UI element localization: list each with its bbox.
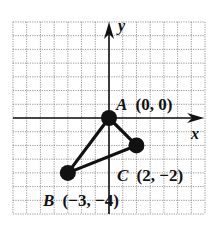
vertex-a-dot — [101, 110, 117, 126]
vertex-coords-a: (0, 0) — [136, 95, 173, 114]
coordinate-plane: x y A (0, 0) B (−3, −4) C (2, −2) — [0, 0, 211, 229]
vertex-name-b: B — [42, 191, 54, 210]
vertex-coords-b: (−3, −4) — [63, 191, 119, 210]
x-axis-label: x — [190, 125, 199, 142]
vertex-label-a: A (0, 0) — [115, 95, 172, 114]
vertex-label-c: C (2, −2) — [117, 166, 183, 185]
vertex-coords-c: (2, −2) — [137, 166, 184, 185]
y-axis-label: y — [116, 17, 126, 35]
vertex-name-c: C — [117, 166, 129, 185]
vertex-c-dot — [128, 137, 144, 153]
vertex-b-dot — [60, 165, 76, 181]
vertex-label-b: B (−3, −4) — [42, 191, 119, 210]
vertex-name-a: A — [115, 95, 127, 114]
